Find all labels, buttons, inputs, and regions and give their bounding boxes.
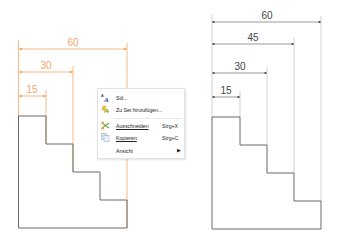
menu-item-label: Zu Set hinzufügen... xyxy=(116,107,162,113)
left-dimension-60[interactable]: 60 xyxy=(19,37,127,49)
menu-item-label-text: Ausschneiden xyxy=(116,123,149,129)
dimension-label: 15 xyxy=(220,85,232,96)
context-menu: A A Stil... Zu Set hinzufügen... Ausschn… xyxy=(97,88,185,159)
menu-item-label: Stil... xyxy=(116,95,128,101)
menu-item-copy[interactable]: Kopieren Strg+C xyxy=(98,132,184,143)
submenu-arrow-icon: ▶ xyxy=(177,147,181,153)
menu-item-label-text: Kopieren xyxy=(116,135,137,141)
menu-item-label: Kopieren xyxy=(116,135,137,141)
menu-item-label: Ausschneiden xyxy=(116,123,149,129)
right-dimension-15[interactable]: 15 xyxy=(212,85,240,97)
menu-item-shortcut: Strg+C xyxy=(162,135,178,141)
menu-item-add-to-set[interactable]: Zu Set hinzufügen... xyxy=(98,104,184,115)
right-drawing[interactable]: 60 45 30 15 xyxy=(212,10,321,229)
left-dimension-15[interactable]: 15 xyxy=(19,84,46,96)
dimension-label: 30 xyxy=(234,61,246,72)
left-dimension-30[interactable]: 30 xyxy=(19,60,73,72)
cut-icon xyxy=(101,121,110,130)
right-stair-outline xyxy=(212,117,321,229)
menu-item-ansicht[interactable]: Ansicht ▶ xyxy=(98,145,184,156)
copy-icon xyxy=(101,133,110,142)
dimension-label: 60 xyxy=(261,10,273,21)
dimension-label: 45 xyxy=(247,32,259,43)
right-dimension-45[interactable]: 45 xyxy=(212,32,294,44)
right-dimension-30[interactable]: 30 xyxy=(212,61,267,73)
menu-separator xyxy=(114,118,182,119)
menu-item-shortcut: Strg+X xyxy=(162,123,178,129)
dimension-label: 15 xyxy=(26,84,38,95)
menu-item-stil[interactable]: A A Stil... xyxy=(98,92,184,103)
right-dimension-60[interactable]: 60 xyxy=(212,10,321,22)
menu-item-cut[interactable]: Ausschneiden Strg+X xyxy=(98,120,184,131)
text-style-icon: A A xyxy=(101,93,110,102)
add-to-set-icon xyxy=(101,105,110,114)
svg-text:A: A xyxy=(103,96,109,102)
dimension-label: 30 xyxy=(40,60,52,71)
dimension-label: 60 xyxy=(67,37,79,48)
menu-item-label: Ansicht xyxy=(116,148,133,154)
